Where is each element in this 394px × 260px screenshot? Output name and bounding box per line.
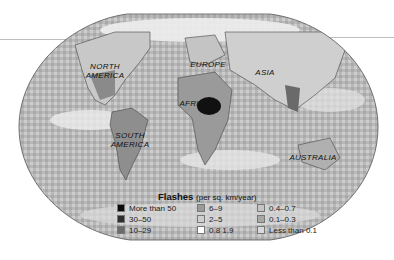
legend-item: 0.4–0.7 [257, 203, 337, 213]
legend-item: 2–5 [197, 214, 257, 224]
legend-item: 0.8 1.9 [197, 225, 257, 235]
label-africa: AFRICA [170, 99, 220, 108]
label-north-america: NORTH AMERICA [80, 62, 130, 80]
legend-title: Flashes (per sq. km/year) [158, 191, 357, 202]
label-asia: ASIA [245, 68, 285, 77]
label-australia: AUSTRALIA [288, 153, 338, 162]
label-south-america: SOUTH AMERICA [110, 131, 150, 149]
legend-item: More than 50 [117, 203, 197, 213]
legend: Flashes (per sq. km/year) More than 50 6… [117, 191, 357, 235]
label-europe: EUROPE [188, 60, 228, 69]
legend-item: 10–29 [117, 225, 197, 235]
legend-item: 0.1–0.3 [257, 214, 337, 224]
legend-item: 6–9 [197, 203, 257, 213]
legend-item: 30–50 [117, 214, 197, 224]
legend-item: Less than 0.1 [257, 225, 337, 235]
